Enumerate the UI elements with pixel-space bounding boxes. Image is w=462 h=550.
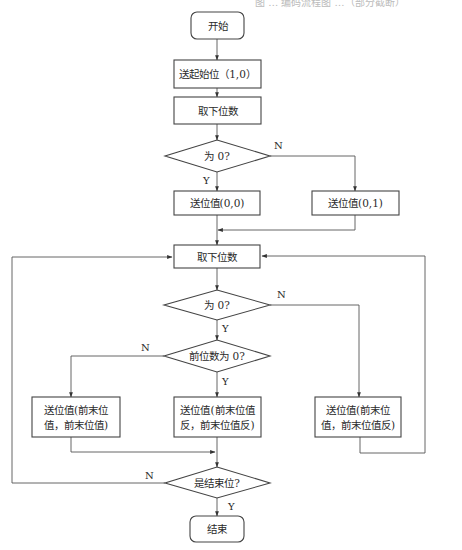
node-decision-is-zero-1-label: 为 0?	[204, 150, 230, 162]
node-start: 开始	[191, 12, 244, 39]
edge-send-01-merge	[218, 215, 355, 230]
node-get-next-bit-2-label: 取下位数	[197, 251, 238, 263]
label-decision-4-no: N	[145, 470, 154, 481]
node-decision-prev-is-zero: 前位数为 0?	[164, 340, 270, 372]
node-send-prev-inverted-second-line1: 送位值(前末位	[326, 404, 391, 416]
label-decision-1-yes: Y	[202, 175, 210, 186]
label-decision-1-no: N	[274, 140, 283, 151]
node-send-prev-inverted-both-line1: 送位值(前末位值	[180, 404, 255, 416]
node-send-00: 送位值(0,0)	[174, 191, 260, 215]
label-decision-3-no: N	[141, 342, 150, 353]
node-send-start-bit-label: 送起始位（1,0）	[179, 68, 256, 80]
node-start-label: 开始	[208, 20, 229, 32]
edge-end-decision-no-loop	[12, 257, 172, 483]
node-decision-is-end-label: 是结束位?	[194, 477, 240, 489]
node-decision-is-zero-2: 为 0?	[164, 290, 270, 320]
edge-decision-2-no	[270, 305, 359, 397]
label-decision-4-yes: Y	[227, 501, 235, 512]
node-decision-is-zero-1: 为 0?	[165, 140, 270, 172]
node-end-label: 结束	[207, 523, 228, 535]
node-end: 结束	[190, 516, 244, 542]
node-send-prev-inverted-second-line2: 值，前末位值反)	[321, 419, 395, 431]
node-send-prev-inverted-second: 送位值(前末位 值，前末位值反)	[315, 397, 401, 437]
node-send-01: 送位值(0,1)	[312, 191, 399, 215]
label-decision-2-yes: Y	[221, 323, 229, 334]
node-send-prev-inverted-both: 送位值(前末位值 反，前末位值反)	[174, 397, 261, 437]
node-send-01-label: 送位值(0,1)	[328, 197, 383, 209]
caption-fragment: 图 … 编码流程图 …（部分截断）	[255, 0, 405, 8]
node-send-prev-inverted-both-line2: 反，前末位值反)	[180, 419, 254, 431]
edge-decision-3-no	[71, 356, 164, 397]
node-get-next-bit-1-label: 取下位数	[198, 105, 239, 117]
node-send-00-label: 送位值(0,0)	[190, 197, 245, 209]
node-decision-is-end: 是结束位?	[165, 467, 270, 498]
edge-left-box-merge	[71, 437, 215, 452]
node-send-prev-same-line2: 值，前末位值)	[44, 419, 108, 431]
node-send-start-bit: 送起始位（1,0）	[174, 60, 261, 88]
label-decision-3-yes: Y	[221, 376, 229, 387]
node-decision-prev-is-zero-label: 前位数为 0?	[189, 350, 245, 362]
label-decision-2-no: N	[277, 289, 286, 300]
node-get-next-bit-2: 取下位数	[174, 245, 260, 268]
node-get-next-bit-1: 取下位数	[174, 97, 261, 124]
node-decision-is-zero-2-label: 为 0?	[204, 299, 230, 311]
edge-decision-1-no	[270, 156, 355, 191]
node-send-prev-same: 送位值(前末位 值，前末位值)	[32, 397, 120, 437]
node-send-prev-same-line1: 送位值(前末位	[44, 404, 109, 416]
flowchart: 图 … 编码流程图 …（部分截断）	[0, 0, 462, 550]
